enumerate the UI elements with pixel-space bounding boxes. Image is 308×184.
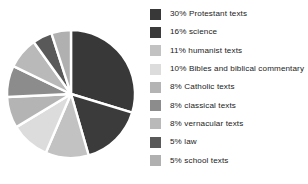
- legend-swatch-school-texts: [150, 155, 161, 166]
- legend-swatch-classical-texts: [150, 100, 161, 111]
- legend-label-school-texts: 5% school texts: [170, 156, 228, 166]
- legend-item-vernacular-texts[interactable]: 8% vernacular texts: [150, 115, 308, 133]
- legend-item-catholic-texts[interactable]: 8% Catholic texts: [150, 78, 308, 96]
- legend-swatch-protestant-texts: [150, 9, 161, 20]
- legend-label-protestant-texts: 30% Protestant texts: [170, 9, 247, 19]
- legend-swatch-science: [150, 27, 161, 38]
- legend-swatch-catholic-texts: [150, 82, 161, 93]
- legend-item-school-texts[interactable]: 5% school texts: [150, 151, 308, 169]
- legend-label-science: 16% science: [170, 27, 217, 37]
- legend-label-vernacular-texts: 8% vernacular texts: [170, 119, 243, 129]
- legend-label-catholic-texts: 8% Catholic texts: [170, 82, 235, 92]
- legend-swatch-bibles: [150, 64, 161, 75]
- legend-item-science[interactable]: 16% science: [150, 23, 308, 41]
- legend-label-bibles: 10% Bibles and biblical commentary: [170, 64, 304, 74]
- legend-label-law: 5% law: [170, 137, 197, 147]
- chart-legend: 30% Protestant texts 16% science 11% hum…: [150, 5, 308, 181]
- legend-item-bibles[interactable]: 10% Bibles and biblical commentary: [150, 60, 308, 78]
- pie-chart-svg: 30% Protestant texts16% science11% human…: [0, 22, 145, 170]
- legend-swatch-law: [150, 137, 161, 148]
- legend-swatch-humanist-texts: [150, 45, 161, 56]
- legend-item-humanist-texts[interactable]: 11% humanist texts: [150, 42, 308, 60]
- pie-chart-figure: 30% Protestant texts16% science11% human…: [0, 0, 308, 184]
- legend-label-classical-texts: 8% classical texts: [170, 101, 236, 111]
- legend-item-classical-texts[interactable]: 8% classical texts: [150, 96, 308, 114]
- pie-chart-plot-area: 30% Protestant texts16% science11% human…: [0, 22, 145, 170]
- legend-swatch-vernacular-texts: [150, 118, 161, 129]
- legend-item-protestant-texts[interactable]: 30% Protestant texts: [150, 5, 308, 23]
- legend-label-humanist-texts: 11% humanist texts: [170, 46, 242, 56]
- legend-item-law[interactable]: 5% law: [150, 133, 308, 151]
